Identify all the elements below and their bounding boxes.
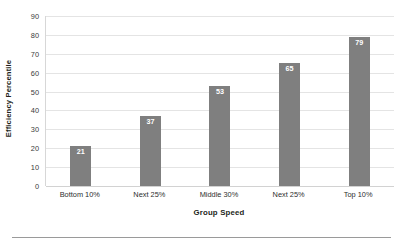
y-axis-tick-label: 90 — [31, 12, 39, 21]
y-axis-tick-label: 0 — [35, 182, 39, 191]
x-axis-tick-label: Top 10% — [323, 190, 393, 199]
x-axis-tick-label: Middle 30% — [184, 190, 254, 199]
x-axis-title: Group Speed — [45, 208, 393, 217]
bar-slot: 65 — [255, 16, 325, 186]
y-axis-tick-label: 80 — [31, 30, 39, 39]
bar-value-label: 79 — [349, 39, 370, 46]
bar-slot: 53 — [185, 16, 255, 186]
bar-chart-figure: Efficiency Percentile 908070605040302010… — [0, 0, 403, 248]
y-axis-tick-label: 50 — [31, 87, 39, 96]
plot-area: 2137536579 — [45, 16, 394, 186]
y-axis-tick-label: 10 — [31, 163, 39, 172]
bar[interactable]: 79 — [349, 37, 370, 186]
y-axis-tick-labels: 9080706050403020100 — [18, 16, 42, 186]
bar-slot: 37 — [116, 16, 186, 186]
bar[interactable]: 37 — [140, 116, 161, 186]
bar-slot: 79 — [324, 16, 394, 186]
bar-value-label: 37 — [140, 118, 161, 125]
x-axis-tick-label: Next 25% — [254, 190, 324, 199]
bar[interactable]: 53 — [209, 86, 230, 186]
y-axis-title-text: Efficiency Percentile — [5, 59, 14, 136]
y-axis-tick-label: 20 — [31, 144, 39, 153]
x-axis-tick-label: Next 25% — [115, 190, 185, 199]
bar-value-label: 21 — [70, 148, 91, 155]
y-axis-tick-label: 30 — [31, 125, 39, 134]
y-axis-tick-label: 60 — [31, 68, 39, 77]
bar-value-label: 53 — [209, 88, 230, 95]
y-axis-tick-label: 70 — [31, 49, 39, 58]
bottom-divider — [12, 237, 391, 238]
x-axis-tick-label: Bottom 10% — [45, 190, 115, 199]
gridline — [46, 186, 394, 187]
x-axis-tick-labels: Bottom 10%Next 25%Middle 30%Next 25%Top … — [45, 190, 393, 204]
bar-value-label: 65 — [279, 65, 300, 72]
bar[interactable]: 65 — [279, 63, 300, 186]
y-axis-tick-label: 40 — [31, 106, 39, 115]
bar-slot: 21 — [46, 16, 116, 186]
bars-container: 2137536579 — [46, 16, 394, 186]
y-axis-title: Efficiency Percentile — [0, 0, 18, 196]
bar[interactable]: 21 — [70, 146, 91, 186]
